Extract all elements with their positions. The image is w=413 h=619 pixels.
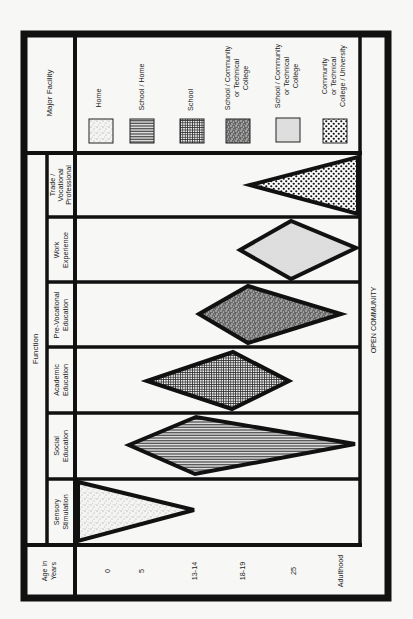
swatch-school-community-speckle xyxy=(226,119,250,143)
diagram-canvas: Major Facility Function Age in Years OPE… xyxy=(0,0,413,619)
svg-text:Sensory: Sensory xyxy=(52,498,61,525)
svg-text:Education: Education xyxy=(61,364,70,396)
svg-text:or Technical: or Technical xyxy=(329,56,338,95)
age-18-19: 18-19 xyxy=(238,562,247,580)
age-25: 25 xyxy=(289,567,298,575)
age-13-14: 13-14 xyxy=(190,562,199,580)
function-header: Function xyxy=(31,334,40,365)
svg-text:or Technical: or Technical xyxy=(282,56,291,95)
svg-text:Social: Social xyxy=(52,436,61,456)
svg-text:Age in: Age in xyxy=(40,561,49,581)
svg-text:College: College xyxy=(241,66,250,90)
svg-text:Education: Education xyxy=(61,430,70,462)
svg-text:Academic: Academic xyxy=(52,364,61,396)
major-facility-header: Major Facility xyxy=(45,69,54,116)
svg-text:Professional: Professional xyxy=(64,165,73,205)
svg-text:Community: Community xyxy=(320,57,329,94)
svg-text:Work: Work xyxy=(52,241,61,258)
swatch-school xyxy=(180,119,204,143)
svg-text:Pre-Vocational: Pre-Vocational xyxy=(52,291,61,338)
svg-text:School / Home: School / Home xyxy=(137,63,146,110)
swatch-community-college xyxy=(323,119,347,143)
swatch-school-community-dots xyxy=(276,118,300,142)
svg-text:School / Community: School / Community xyxy=(273,43,282,108)
svg-text:Years: Years xyxy=(49,562,58,581)
svg-text:Stimulation: Stimulation xyxy=(61,494,70,530)
svg-text:Home: Home xyxy=(94,88,103,107)
function-label-academic: Academic Education xyxy=(52,364,70,396)
svg-text:Experience: Experience xyxy=(61,232,70,268)
svg-text:Education: Education xyxy=(61,299,70,331)
legend-item-community-college: Community or Technical College / Univers… xyxy=(320,45,347,143)
age-adulthood: Adulthood xyxy=(336,555,345,587)
function-label-sensory: Sensory Stimulation xyxy=(52,494,70,530)
age-header: Age in Years xyxy=(40,561,58,581)
age-5: 5 xyxy=(137,569,146,573)
age-0: 0 xyxy=(103,569,112,573)
open-community-label: OPEN COMMUNITY xyxy=(369,286,378,353)
svg-text:School: School xyxy=(186,89,195,111)
swatch-home xyxy=(89,119,113,143)
svg-text:College / University: College / University xyxy=(338,45,347,107)
svg-text:School / Community: School / Community xyxy=(223,45,232,110)
swatch-school-home xyxy=(130,119,154,143)
svg-text:or Technical: or Technical xyxy=(232,58,241,97)
svg-text:College: College xyxy=(291,64,300,88)
